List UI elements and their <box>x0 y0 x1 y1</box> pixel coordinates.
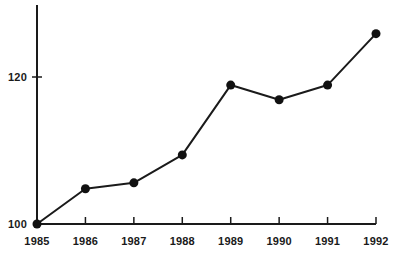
x-axis-tick-label: 1986 <box>73 236 98 247</box>
y-axis-tick-label: 100 <box>0 219 27 230</box>
data-point-marker <box>372 29 381 38</box>
x-axis-tick-label: 1987 <box>121 236 146 247</box>
data-point-markers <box>33 29 381 228</box>
line-chart: 100120 19851986198719881989199019911992 <box>0 0 396 258</box>
x-axis-tick-label: 1988 <box>170 236 195 247</box>
data-point-marker <box>33 220 42 229</box>
data-point-marker <box>81 184 90 193</box>
x-axis-tick-label: 1989 <box>218 236 243 247</box>
data-point-marker <box>178 150 187 159</box>
chart-plot-area <box>0 0 396 258</box>
y-axis-tick-label: 120 <box>0 72 27 83</box>
data-point-marker <box>323 81 332 90</box>
data-point-marker <box>226 81 235 90</box>
data-point-marker <box>129 178 138 187</box>
x-axis-tick-label: 1991 <box>315 236 340 247</box>
x-axis-ticks <box>37 217 376 224</box>
x-axis-tick-label: 1985 <box>24 236 49 247</box>
x-axis-tick-label: 1992 <box>363 236 388 247</box>
data-line <box>37 34 376 224</box>
data-point-marker <box>275 95 284 104</box>
x-axis-tick-label: 1990 <box>267 236 292 247</box>
